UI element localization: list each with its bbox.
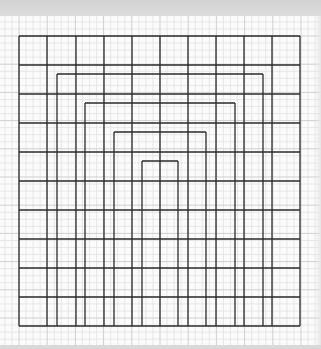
drawing-canvas (0, 0, 321, 349)
paper-bottom-shadow (0, 345, 321, 349)
graph-paper-photo: Hand-drawn nested grid on graph paper (0, 0, 321, 349)
paper-edge-shadow (315, 16, 321, 349)
